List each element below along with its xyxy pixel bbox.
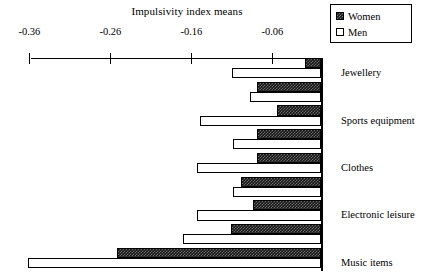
bar-women xyxy=(253,200,321,210)
chart-title: Impulsivity index means xyxy=(112,5,262,17)
impulsivity-bar-chart: Impulsivity index means Women Men -0.36-… xyxy=(0,0,435,277)
bar-women xyxy=(257,153,321,163)
bar-men xyxy=(232,68,321,78)
x-axis-tick-label: -0.06 xyxy=(261,26,283,37)
category-group: Electronic leisure xyxy=(0,129,435,153)
bar-men xyxy=(183,234,321,244)
legend-label-women: Women xyxy=(348,11,380,22)
category-group: Kitchen items xyxy=(0,200,435,224)
category-group: Jewellery xyxy=(0,58,435,82)
plot-area: JewellerySports equipmentClothesElectron… xyxy=(0,58,435,273)
x-axis-tick-label: -0.26 xyxy=(99,26,121,37)
x-axis-tick-labels: -0.36-0.26-0.16-0.06 xyxy=(0,26,435,40)
bar-women xyxy=(305,58,321,68)
category-group: Clothes xyxy=(0,105,435,129)
bar-men xyxy=(28,258,321,268)
category-group: Books xyxy=(0,177,435,201)
bar-men xyxy=(200,116,321,126)
bar-men xyxy=(250,92,321,102)
x-axis-tick-label: -0.36 xyxy=(18,26,40,37)
bar-men xyxy=(197,163,321,173)
bar-women xyxy=(241,177,321,187)
category-group: Footwear xyxy=(0,224,435,248)
bar-women xyxy=(231,224,321,234)
bar-men xyxy=(197,210,321,220)
x-axis-tick-label: -0.16 xyxy=(180,26,202,37)
category-label: Jewellery xyxy=(341,67,381,79)
category-group: Body xyxy=(0,248,435,272)
bar-men xyxy=(233,139,321,149)
bar-men xyxy=(233,187,321,197)
legend-swatch-women-icon xyxy=(336,12,344,20)
legend-item-women: Women xyxy=(336,8,411,24)
bar-women xyxy=(257,129,321,139)
bar-women xyxy=(257,82,321,92)
category-group: Sports equipment xyxy=(0,82,435,106)
bar-women xyxy=(117,248,321,258)
bar-women xyxy=(277,105,321,115)
category-group: Music items xyxy=(0,153,435,177)
